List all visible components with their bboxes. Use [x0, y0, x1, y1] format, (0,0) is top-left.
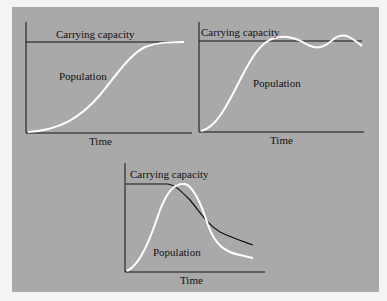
time-label: Time [89, 135, 112, 147]
chart-logistic: Carrying capacity Population Time [26, 22, 192, 147]
population-label: Population [253, 77, 301, 89]
population-diagrams: Carrying capacity Population Time Carryi… [0, 0, 387, 301]
time-label: Time [270, 134, 293, 146]
chart-collapse: Carrying capacity Population Time [125, 163, 265, 286]
population-label: Population [153, 246, 201, 258]
carrying-capacity-line [126, 184, 253, 245]
capacity-label: Carrying capacity [56, 28, 135, 40]
chart-oscillating: Carrying capacity Population Time [199, 22, 364, 146]
time-label: Time [180, 274, 203, 286]
population-curve [28, 42, 184, 132]
capacity-label: Carrying capacity [130, 168, 209, 180]
population-label: Population [59, 70, 107, 82]
capacity-label: Carrying capacity [201, 26, 280, 38]
